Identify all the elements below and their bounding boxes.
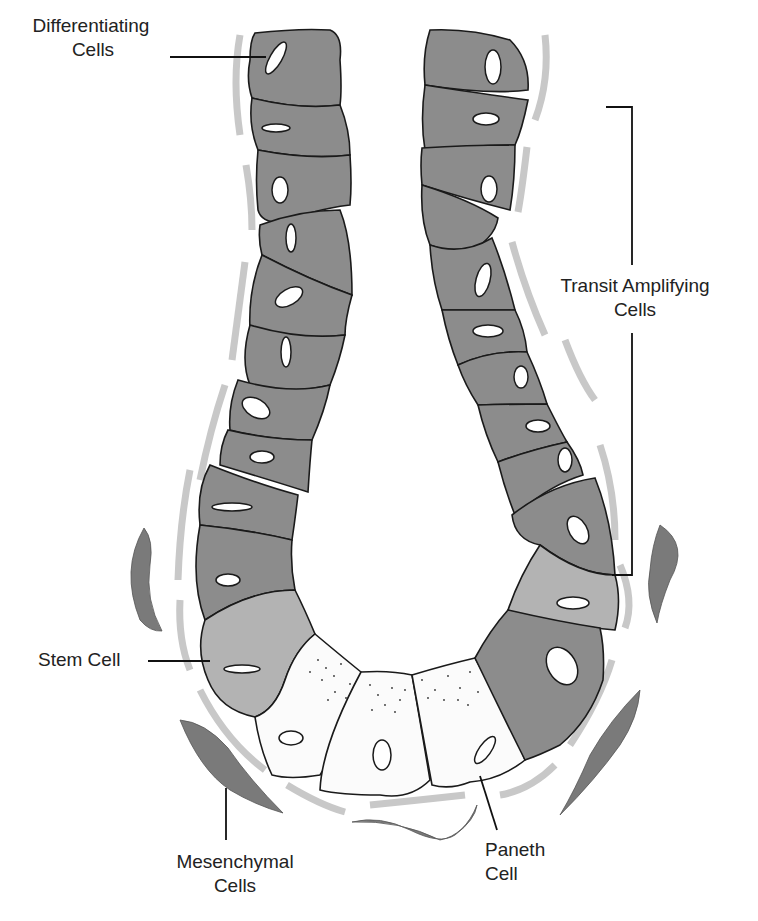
label-line: Cells <box>540 298 730 322</box>
label-line: Transit Amplifying <box>540 274 730 298</box>
crypt-diagram <box>0 0 758 921</box>
transit-amplifying-cell <box>458 352 547 405</box>
label-transit-amplifying-cells: Transit Amplifying Cells <box>540 274 730 322</box>
mesenchymal-cell <box>352 805 477 840</box>
label-mesenchymal-cells: Mesenchymal Cells <box>165 850 305 898</box>
label-line: Cell <box>485 862 545 886</box>
differentiating-cell <box>248 29 341 106</box>
label-differentiating-cells: Differentiating Cells <box>16 14 166 62</box>
transit-amplifying-cell <box>430 238 515 310</box>
label-line: Differentiating <box>16 14 166 38</box>
mesenchymal-cell <box>131 528 162 631</box>
left-epithelium <box>196 29 352 717</box>
label-line: Paneth <box>485 838 545 862</box>
bracket-transit-amplifying <box>606 107 632 265</box>
differentiating-cell <box>424 30 528 92</box>
leader-paneth <box>480 776 497 830</box>
label-paneth-cell: Paneth Cell <box>485 838 545 886</box>
label-line: Mesenchymal <box>165 850 305 874</box>
label-line: Cells <box>165 874 305 898</box>
label-line: Cells <box>16 38 166 62</box>
label-stem-cell: Stem Cell <box>38 648 120 672</box>
label-line: Stem Cell <box>38 648 120 672</box>
mesenchymal-cell <box>649 525 678 623</box>
